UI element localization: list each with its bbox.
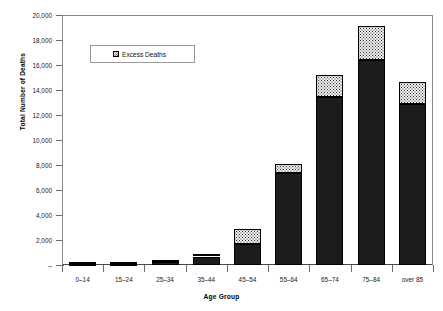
y-tick-label: 8,000	[0, 162, 52, 169]
y-tick-label: 16,000	[0, 62, 52, 69]
x-tick-mark	[144, 265, 145, 272]
bar-segment-excess-deaths	[275, 164, 302, 172]
x-tick-mark	[309, 265, 310, 272]
bar-segment-baseline-deaths	[234, 244, 261, 265]
bar-segment-baseline-deaths	[152, 262, 179, 265]
x-tick-mark	[268, 265, 269, 272]
bar-segment-baseline-deaths	[275, 173, 302, 266]
bar-segment-baseline-deaths	[399, 104, 426, 265]
x-tick-mark	[351, 265, 352, 272]
bar-segment-baseline-deaths	[69, 264, 96, 266]
y-tick-label: 10,000	[0, 137, 52, 144]
y-tick-label: 20,000	[0, 12, 52, 19]
legend-item-label: Excess Deaths	[122, 51, 166, 58]
bar-chart: Total Number of Deaths –2,0004,0006,0008…	[0, 0, 443, 311]
bar-segment-excess-deaths	[358, 26, 385, 60]
y-tick-label: 18,000	[0, 37, 52, 44]
chart-legend: Excess Deaths	[90, 45, 195, 63]
y-tick-label: 14,000	[0, 87, 52, 94]
y-tick-label: 2,000	[0, 237, 52, 244]
x-tick-mark	[433, 265, 434, 272]
bar-segment-baseline-deaths	[110, 264, 137, 266]
bar-segment-baseline-deaths	[193, 257, 220, 266]
bar-segment-baseline-deaths	[358, 60, 385, 265]
bar-segment-excess-deaths	[399, 82, 426, 105]
bar-segment-baseline-deaths	[316, 97, 343, 265]
y-tick-label: 12,000	[0, 112, 52, 119]
excess-deaths-swatch-icon	[113, 51, 119, 57]
x-axis-title: Age Group	[0, 293, 443, 300]
x-tick-mark	[62, 265, 63, 272]
x-tick-mark	[392, 265, 393, 272]
x-tick-mark	[103, 265, 104, 272]
y-tick-label: 4,000	[0, 212, 52, 219]
x-tick-label: over 85	[387, 276, 437, 283]
x-tick-mark	[186, 265, 187, 272]
bar-segment-excess-deaths	[234, 229, 261, 243]
y-tick-label: 6,000	[0, 187, 52, 194]
x-tick-mark	[227, 265, 228, 272]
bar-segment-excess-deaths	[316, 75, 343, 97]
y-tick-label: –	[0, 262, 52, 269]
